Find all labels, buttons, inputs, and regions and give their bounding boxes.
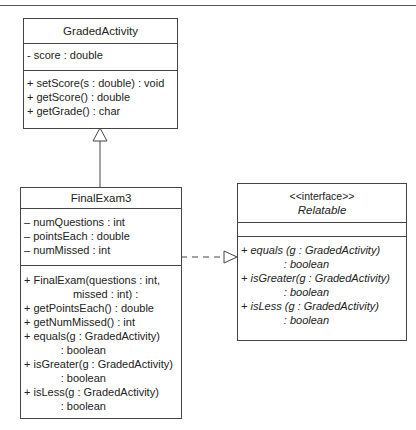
class-name: Relatable (238, 203, 406, 218)
methods-compartment: + FinalExam(questions : int, missed : in… (21, 266, 181, 413)
class-name-compartment: GradedActivity (24, 19, 177, 44)
method: + isGreater(g : GradedActivity) (24, 357, 181, 371)
method: + setScore(s : double) : void (27, 76, 177, 90)
class-graded-activity: GradedActivity - score : double + setSco… (23, 18, 178, 129)
method: + equals (g : GradedActivity) (241, 243, 406, 257)
method: + getPointsEach() : double (24, 301, 181, 315)
attribute: – numMissed : int (24, 243, 181, 257)
class-name-compartment: <<interface>> Relatable (238, 184, 406, 223)
method: + isGreater(g : GradedActivity) (241, 271, 406, 285)
class-name: GradedActivity (63, 25, 138, 37)
attributes-compartment: – numQuestions : int – pointsEach : doub… (21, 209, 181, 266)
method: : boolean (241, 313, 406, 327)
interface-relatable: <<interface>> Relatable + equals (g : Gr… (237, 183, 407, 341)
methods-compartment: + setScore(s : double) : void + getScore… (24, 71, 177, 118)
attribute: - score : double (27, 48, 177, 62)
attributes-compartment (238, 223, 406, 237)
class-name-compartment: FinalExam3 (21, 188, 181, 209)
method: missed : int) : (24, 287, 181, 301)
method: + isLess (g : GradedActivity) (241, 299, 406, 313)
method: : boolean (241, 257, 406, 271)
method: + getScore() : double (27, 90, 177, 104)
inheritance-arrow (93, 128, 107, 187)
method: + FinalExam(questions : int, (24, 273, 181, 287)
attribute: – pointsEach : double (24, 229, 181, 243)
method: : boolean (24, 371, 181, 385)
attributes-compartment: - score : double (24, 44, 177, 71)
method: + equals(g : GradedActivity) (24, 329, 181, 343)
methods-compartment: + equals (g : GradedActivity) : boolean … (238, 237, 406, 327)
method: : boolean (24, 343, 181, 357)
class-final-exam3: FinalExam3 – numQuestions : int – points… (20, 187, 182, 419)
method: : boolean (241, 285, 406, 299)
class-name: FinalExam3 (71, 192, 132, 204)
attribute: – numQuestions : int (24, 215, 181, 229)
realization-arrow (181, 251, 237, 263)
method: : boolean (24, 399, 181, 413)
method: + isLess(g : GradedActivity) (24, 385, 181, 399)
method: + getGrade() : char (27, 104, 177, 118)
stereotype-label: <<interface>> (238, 189, 406, 203)
method: + getNumMissed() : int (24, 315, 181, 329)
